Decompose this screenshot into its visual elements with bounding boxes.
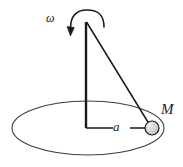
conical-pendulum-figure: ω a M bbox=[0, 0, 183, 167]
pendulum-string-line bbox=[87, 22, 152, 127]
angular-velocity-label: ω bbox=[46, 12, 54, 24]
mass-label: M bbox=[161, 102, 174, 117]
rotation-direction-arc bbox=[71, 10, 105, 29]
mass-bob-circle bbox=[145, 121, 159, 135]
diagram-canvas bbox=[0, 0, 183, 167]
radius-label: a bbox=[113, 120, 120, 133]
rotation-arrowhead-icon bbox=[67, 27, 74, 37]
